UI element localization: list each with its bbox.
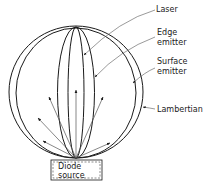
label-surface-emitter-2: emitter	[157, 67, 187, 76]
label-lambertian: Lambertian	[157, 105, 203, 114]
label-edge-emitter-1: Edge	[157, 28, 177, 37]
emission-arrows	[38, 90, 110, 158]
radiation-pattern-diagram: Laser Edge emitter Surface emitter Lambe…	[0, 0, 209, 191]
label-diode-2: source	[58, 171, 85, 180]
label-edge-emitter-2: emitter	[157, 38, 187, 47]
label-diode-1: Diode	[58, 162, 81, 171]
label-surface-emitter-1: Surface	[157, 57, 188, 66]
label-laser: Laser	[156, 5, 178, 14]
diode-source: Diode source	[51, 160, 102, 180]
